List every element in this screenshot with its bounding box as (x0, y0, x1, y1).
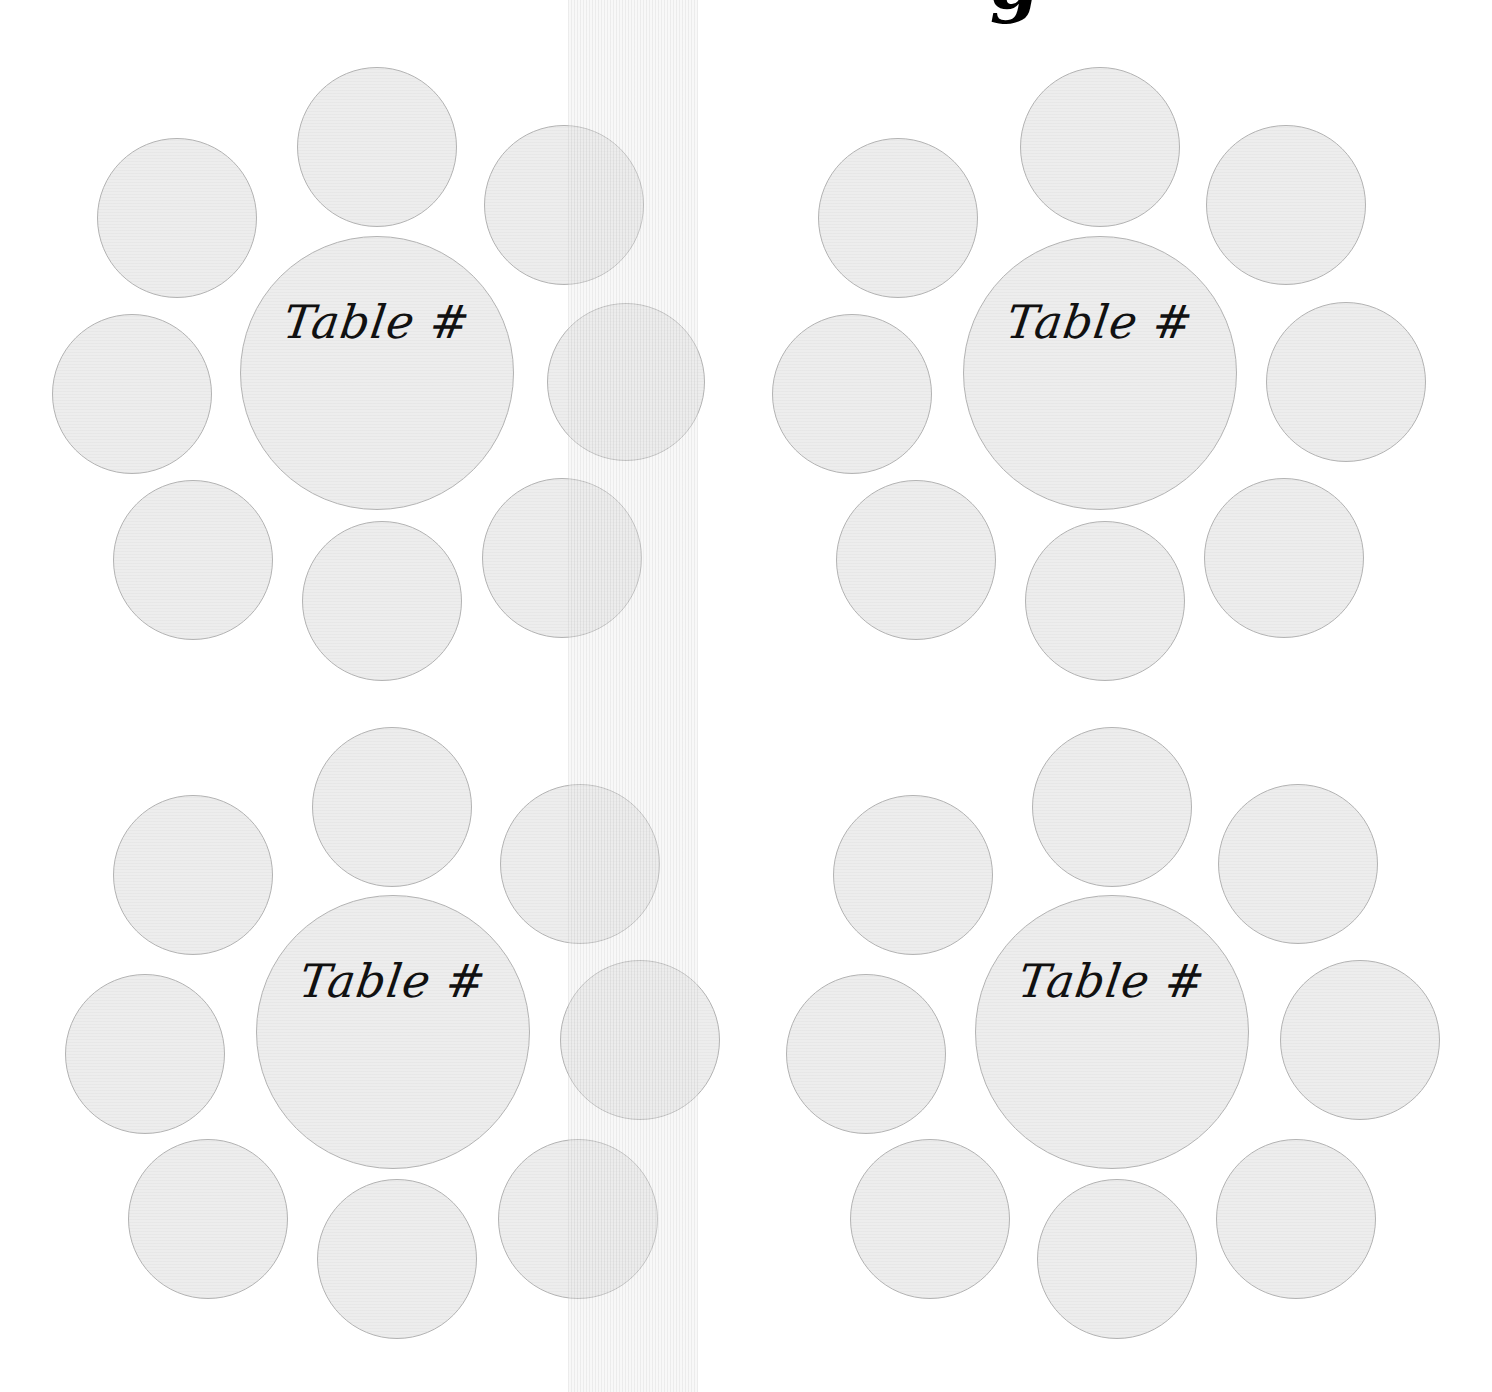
seat-circle[interactable] (312, 727, 472, 887)
seat-circle[interactable] (818, 138, 978, 298)
seat-circle[interactable] (547, 303, 705, 461)
seat-circle[interactable] (833, 795, 993, 955)
seat-circle[interactable] (850, 1139, 1010, 1299)
seat-circle[interactable] (498, 1139, 658, 1299)
seat-circle[interactable] (1037, 1179, 1197, 1339)
table-circle[interactable]: Table # (975, 895, 1249, 1169)
seat-circle[interactable] (500, 784, 660, 944)
seat-circle[interactable] (1266, 302, 1426, 462)
seat-circle[interactable] (1020, 67, 1180, 227)
seat-circle[interactable] (1025, 521, 1185, 681)
seat-circle[interactable] (97, 138, 257, 298)
seat-circle[interactable] (484, 125, 644, 285)
seat-circle[interactable] (113, 480, 273, 640)
seat-circle[interactable] (128, 1139, 288, 1299)
table-circle[interactable]: Table # (963, 236, 1237, 510)
seat-circle[interactable] (836, 480, 996, 640)
seat-circle[interactable] (1204, 478, 1364, 638)
seat-circle[interactable] (113, 795, 273, 955)
table-circle[interactable]: Table # (240, 236, 514, 510)
seat-circle[interactable] (52, 314, 212, 474)
table-label: Table # (960, 295, 1240, 349)
seat-circle[interactable] (1280, 960, 1440, 1120)
seat-circle[interactable] (786, 974, 946, 1134)
table-circle[interactable]: Table # (256, 895, 530, 1169)
seat-circle[interactable] (65, 974, 225, 1134)
table-label: Table # (237, 295, 517, 349)
seat-circle[interactable] (302, 521, 462, 681)
seat-circle[interactable] (317, 1179, 477, 1339)
seat-circle[interactable] (1206, 125, 1366, 285)
seat-circle[interactable] (297, 67, 457, 227)
seat-circle[interactable] (560, 960, 720, 1120)
table-label: Table # (972, 954, 1252, 1008)
seat-circle[interactable] (772, 314, 932, 474)
seat-circle[interactable] (1032, 727, 1192, 887)
seat-circle[interactable] (482, 478, 642, 638)
table-label: Table # (253, 954, 533, 1008)
seat-circle[interactable] (1216, 1139, 1376, 1299)
heading-fragment: g (990, 0, 1039, 20)
seat-circle[interactable] (1218, 784, 1378, 944)
